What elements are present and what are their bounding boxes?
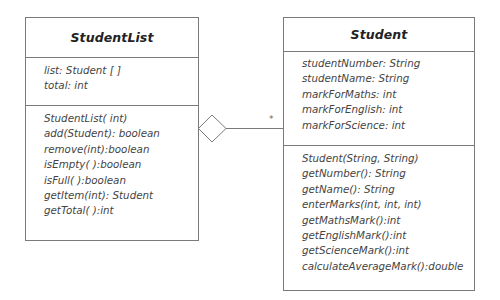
operation: getNumber(): String xyxy=(302,166,474,181)
operations-section: Student(String, String) getNumber(): Str… xyxy=(284,146,474,274)
operation: getScienceMark():int xyxy=(302,243,474,258)
operations-section: StudentList( int) add(Student): boolean … xyxy=(26,106,198,219)
operation: getEnglishMark():int xyxy=(302,228,474,243)
attribute: studentNumber: String xyxy=(302,56,474,71)
operation: add(Student): boolean xyxy=(44,126,198,141)
operation: getName(): String xyxy=(302,182,474,197)
operation: StudentList( int) xyxy=(44,111,198,126)
attributes-section: list: Student [ ] total: int xyxy=(26,58,198,106)
class-name: StudentList xyxy=(71,30,154,45)
class-box-student: Student studentNumber: String studentNam… xyxy=(283,17,475,291)
attributes-section: studentNumber: String studentName: Strin… xyxy=(284,52,474,146)
operation: calculateAverageMark():double xyxy=(302,259,474,274)
class-header: Student xyxy=(284,18,474,52)
class-header: StudentList xyxy=(26,18,198,58)
attribute: markForMaths: int xyxy=(302,87,474,102)
class-name: Student xyxy=(351,27,408,42)
operation: enterMarks(int, int, int) xyxy=(302,197,474,212)
attribute: studentName: String xyxy=(302,71,474,86)
operation: isFull( ):boolean xyxy=(44,173,198,188)
class-box-studentlist: StudentList list: Student [ ] total: int… xyxy=(25,17,199,241)
attribute: total: int xyxy=(44,78,198,93)
operation: Student(String, String) xyxy=(302,151,474,166)
operation: getItem(int): Student xyxy=(44,188,198,203)
multiplicity-label: * xyxy=(269,114,274,124)
attribute: markForEnglish: int xyxy=(302,102,474,117)
operation: isEmpty( ):boolean xyxy=(44,157,198,172)
operation: remove(int):boolean xyxy=(44,142,198,157)
operation: getTotal( ):int xyxy=(44,203,198,218)
attribute: markForScience: int xyxy=(302,118,474,133)
hollow-diamond-icon xyxy=(199,115,227,142)
operation: getMathsMark():int xyxy=(302,213,474,228)
attribute: list: Student [ ] xyxy=(44,63,198,78)
